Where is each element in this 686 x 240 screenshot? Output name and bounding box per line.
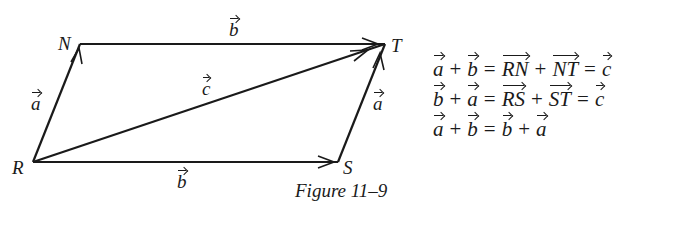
figure-caption: Figure 11–9: [295, 180, 387, 202]
point-label-S: S: [343, 158, 353, 177]
point-label-T: T: [391, 36, 402, 55]
vector-label-a-left: a: [31, 94, 41, 113]
point-label-R: R: [12, 158, 24, 177]
equation-2: b+a=RS+ST=c: [433, 87, 611, 117]
equations-block: a+b=RN+NT=c b+a=RS+ST=c a+b=b+a: [433, 57, 611, 147]
vector-label-c-diagonal: c: [202, 79, 210, 98]
vector-label-b-bottom: b: [177, 172, 187, 191]
vector-label-a-right: a: [373, 94, 383, 113]
vector-label-b-top: b: [229, 20, 239, 39]
point-label-N: N: [58, 34, 71, 53]
vector-RT: [33, 44, 385, 162]
equation-3: a+b=b+a: [433, 117, 611, 147]
